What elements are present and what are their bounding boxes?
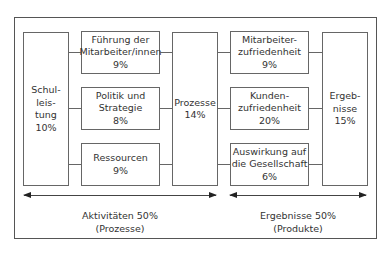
ressourcen-label: Ressourcen 9% bbox=[93, 152, 148, 177]
schulleistung-box: Schul- leis- tung 10% bbox=[23, 32, 69, 186]
connector-line bbox=[69, 52, 81, 53]
connector-line bbox=[218, 108, 230, 109]
arrowhead-left-icon bbox=[23, 192, 31, 198]
politik-strategie-box: Politik und Strategie 8% bbox=[81, 87, 160, 130]
connector-line bbox=[309, 108, 322, 109]
ergebnisse-box: Ergeb- nisse 15% bbox=[322, 32, 368, 186]
fuehrung-box: Führung der Mitarbeiter/innen 9% bbox=[81, 31, 160, 74]
connector-line bbox=[309, 164, 322, 165]
schulleistung-label: Schul- leis- tung 10% bbox=[31, 84, 60, 134]
arrowhead-left-icon bbox=[229, 192, 237, 198]
ressourcen-box: Ressourcen 9% bbox=[81, 143, 160, 186]
mitarbeiterzufriedenheit-box: Mitarbeiter- zufriedenheit 9% bbox=[230, 31, 309, 74]
connector-line bbox=[69, 164, 81, 165]
arrowhead-right-icon bbox=[359, 192, 367, 198]
aktivitaeten-caption: Aktivitäten 50% (Prozesse) bbox=[60, 210, 180, 235]
prozesse-box: Prozesse 14% bbox=[172, 32, 218, 186]
prozesse-label: Prozesse 14% bbox=[174, 97, 216, 122]
ergebnisse-caption: Ergebnisse 50% (Produkte) bbox=[238, 210, 358, 235]
kundenzufriedenheit-box: Kunden- zufriedenheit 20% bbox=[230, 87, 309, 130]
kundenzufriedenheit-label: Kunden- zufriedenheit 20% bbox=[238, 90, 301, 128]
arrowhead-right-icon bbox=[209, 192, 217, 198]
connector-line bbox=[160, 52, 172, 53]
fuehrung-label: Führung der Mitarbeiter/innen 9% bbox=[79, 34, 161, 72]
aktivitaeten-double-arrow bbox=[24, 195, 216, 196]
connector-line bbox=[218, 164, 230, 165]
connector-line bbox=[69, 108, 81, 109]
gesellschaft-label: Auswirkung auf die Gesellschaft 6% bbox=[232, 146, 308, 184]
gesellschaft-box: Auswirkung auf die Gesellschaft 6% bbox=[230, 143, 309, 186]
connector-line bbox=[160, 108, 172, 109]
politik-strategie-label: Politik und Strategie 8% bbox=[96, 90, 145, 128]
ergebnisse-double-arrow bbox=[230, 195, 366, 196]
connector-line bbox=[218, 52, 230, 53]
ergebnisse-label: Ergeb- nisse 15% bbox=[329, 90, 360, 128]
connector-line bbox=[160, 164, 172, 165]
connector-line bbox=[309, 52, 322, 53]
mitarbeiterzufriedenheit-label: Mitarbeiter- zufriedenheit 9% bbox=[238, 34, 301, 72]
